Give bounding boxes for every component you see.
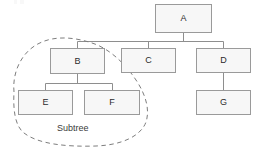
tree-diagram: A B C D E F G Subtree (0, 0, 257, 160)
node-f[interactable]: F (84, 90, 140, 115)
node-c[interactable]: C (121, 48, 176, 73)
subtree-label: Subtree (57, 124, 89, 133)
node-f-label: F (109, 98, 115, 107)
node-b-label: B (74, 57, 80, 66)
node-c-label: C (145, 56, 152, 65)
node-g[interactable]: G (196, 90, 251, 115)
node-d[interactable]: D (196, 48, 251, 73)
node-a-label: A (180, 14, 186, 23)
diagram-canvas (0, 0, 257, 160)
node-d-label: D (220, 56, 227, 65)
node-e-label: E (42, 98, 48, 107)
node-e[interactable]: E (18, 90, 73, 115)
node-b[interactable]: B (50, 48, 105, 74)
node-a[interactable]: A (155, 4, 212, 33)
node-g-label: G (220, 98, 227, 107)
edge-group-b (46, 74, 113, 90)
